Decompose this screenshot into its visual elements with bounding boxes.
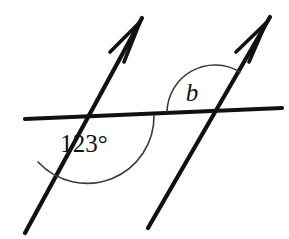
angle-label-b: b	[186, 79, 199, 106]
arrowhead-right-icon	[236, 23, 266, 62]
geometry-canvas: 123° b	[0, 0, 289, 239]
parallel-line-left	[25, 18, 142, 233]
parallel-line-right	[148, 17, 270, 228]
angle-label-123: 123°	[60, 130, 108, 157]
geometry-diagram: 123° b	[0, 0, 289, 239]
arrowhead-left-icon	[110, 22, 140, 62]
